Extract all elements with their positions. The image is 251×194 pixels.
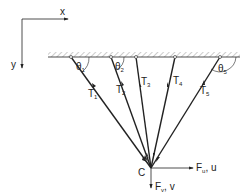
angle-arcs <box>82 57 236 72</box>
force-fv-label: Fv, v <box>155 181 175 193</box>
tension-t3-label: T3 <box>141 76 151 88</box>
cable-t4 <box>151 57 175 168</box>
cable-t2 <box>111 57 151 168</box>
angle-theta1-label: θ1 <box>76 61 86 73</box>
angle-theta5-label: θ5 <box>218 63 228 75</box>
x-axis-label: x <box>60 6 65 17</box>
force-fu-label: Fu, u <box>196 162 217 174</box>
coordinate-axes: x y <box>11 6 68 70</box>
tension-t2-label: T2 <box>116 84 126 96</box>
point-c-label: C <box>138 167 145 178</box>
cables <box>70 56 222 169</box>
y-axis-label: y <box>11 59 16 70</box>
cable-t1 <box>71 57 151 168</box>
cable-system-diagram: x y θ1 θ2 θ5 <box>0 0 251 194</box>
tension-t5-label: T5 <box>200 85 210 97</box>
cable-t5 <box>151 57 220 168</box>
tension-t4-label: T4 <box>173 75 183 87</box>
ceiling-support <box>48 52 240 57</box>
tension-t1-label: T1 <box>88 88 98 100</box>
